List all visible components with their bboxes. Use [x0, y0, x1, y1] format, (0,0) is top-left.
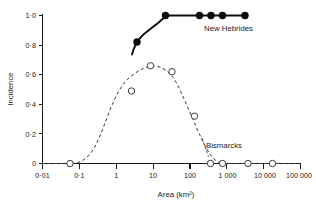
bismarcks-curve — [43, 66, 301, 164]
bismarcks-point-3 — [169, 69, 175, 75]
chart-svg: 0 0·2 0·4 0·6 0·8 1·0 0·01 0·1 1 10 100 … — [0, 0, 316, 204]
x-axis-title-text: Area (km²) — [158, 190, 195, 199]
x-tick-label-100000: 100 000 — [286, 171, 312, 180]
bismarcks-point-0 — [67, 160, 73, 166]
bismarcks-point-5 — [207, 160, 213, 166]
new-hebrides-point-0 — [133, 38, 140, 45]
x-tick-label-100: 100 — [184, 171, 196, 180]
y-tick-label-0-6: 0·6 — [26, 70, 36, 79]
chart-figure: 0 0·2 0·4 0·6 0·8 1·0 0·01 0·1 1 10 100 … — [0, 0, 316, 204]
new-hebrides-point-4 — [219, 12, 226, 19]
x-axis-ticks — [43, 164, 301, 169]
bismarcks-point-1 — [128, 88, 134, 94]
axes — [43, 14, 301, 164]
x-tick-label-0-01: 0·01 — [35, 171, 49, 180]
new-hebrides-point-3 — [207, 12, 214, 19]
y-axis-title: Incidence — [6, 72, 15, 105]
y-axis-tick-labels: 0 0·2 0·4 0·6 0·8 1·0 — [26, 11, 36, 168]
new-hebrides-curve — [132, 16, 245, 55]
y-tick-label-1-0: 1·0 — [26, 11, 36, 20]
x-axis-title: Area (km²) — [158, 190, 195, 199]
new-hebrides-point-2 — [196, 12, 203, 19]
x-tick-label-10000: 10 000 — [254, 171, 276, 180]
bismarcks-point-7 — [245, 160, 251, 166]
y-tick-label-0: 0 — [32, 159, 36, 168]
y-tick-label-0-8: 0·8 — [26, 41, 36, 50]
series-bismarcks: Bismarcks — [43, 63, 301, 167]
bismarcks-point-4 — [191, 113, 197, 119]
new-hebrides-series-label: New Hebrides — [204, 24, 253, 33]
x-tick-label-1: 1 — [114, 171, 118, 180]
bismarcks-point-8 — [269, 160, 275, 166]
new-hebrides-point-5 — [241, 12, 248, 19]
new-hebrides-point-1 — [162, 12, 169, 19]
x-tick-label-0-1: 0·1 — [74, 171, 84, 180]
bismarcks-point-6 — [219, 160, 225, 166]
series-new-hebrides: New Hebrides — [132, 12, 253, 55]
y-tick-label-0-2: 0·2 — [26, 130, 36, 139]
bismarcks-series-label: Bismarcks — [206, 141, 242, 150]
x-axis-tick-labels: 0·01 0·1 1 10 100 1 000 10 000 100 000 — [35, 171, 312, 180]
y-tick-label-0-4: 0·4 — [26, 100, 36, 109]
x-tick-label-10: 10 — [149, 171, 157, 180]
bismarcks-point-2 — [147, 63, 153, 69]
y-axis-ticks — [39, 16, 43, 164]
x-tick-label-1000: 1 000 — [219, 171, 237, 180]
